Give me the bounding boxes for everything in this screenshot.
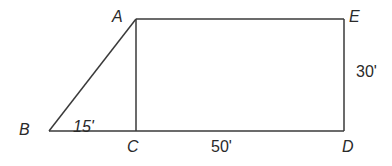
measurement-bc: 15': [73, 119, 94, 135]
trapezoid-diagram: [0, 0, 392, 166]
vertex-label-b: B: [19, 122, 30, 138]
vertex-label-a: A: [112, 9, 123, 25]
vertex-label-d: D: [342, 139, 354, 155]
segment-BA: [49, 19, 136, 131]
measurement-ed: 30': [356, 64, 377, 80]
measurement-cd: 50': [211, 139, 232, 155]
vertex-label-c: C: [127, 139, 139, 155]
vertex-label-e: E: [349, 9, 360, 25]
